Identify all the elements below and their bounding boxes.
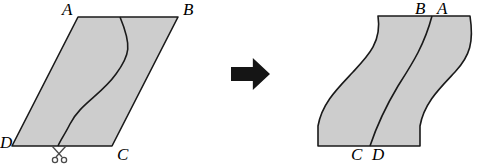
right-vertex-label-c: C	[351, 146, 362, 163]
scissors-handle-right	[61, 157, 66, 162]
left-vertex-label-c: C	[117, 146, 128, 163]
left-vertex-label-d: D	[0, 134, 12, 151]
left-vertex-label-a: A	[62, 1, 72, 18]
right-arrow-icon	[231, 58, 270, 90]
left-parallelogram	[12, 17, 178, 146]
right-vertex-label-a: A	[437, 0, 447, 17]
arrow-head-and-shaft	[231, 58, 270, 90]
rearranged-wave-shape	[318, 16, 471, 146]
right-vertex-label-d: D	[372, 146, 384, 163]
scissors-handle-left	[52, 157, 57, 162]
scissors-icon	[52, 146, 67, 163]
left-vertex-label-b: B	[183, 1, 193, 18]
right-vertex-label-b: B	[415, 0, 425, 17]
figure-canvas	[0, 0, 487, 165]
geometry-figure: A B C D B A C D	[0, 0, 487, 165]
